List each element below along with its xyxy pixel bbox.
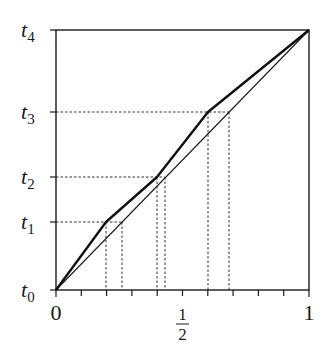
label-t0: t0	[21, 277, 35, 305]
y-ticks	[50, 30, 56, 290]
x-ticks	[56, 290, 309, 297]
label-t3: t3	[21, 99, 35, 127]
y-axis-labels: t0 t1 t2 t3 t4	[21, 17, 35, 305]
label-x-half-denominator: 2	[178, 325, 187, 344]
x-axis-labels: 0 1 2 1	[51, 300, 315, 344]
label-x-one: 1	[304, 300, 315, 325]
label-x-zero: 0	[51, 300, 62, 325]
identity-diagonal	[56, 30, 309, 290]
label-x-half-numerator: 1	[178, 305, 187, 324]
label-t4: t4	[21, 17, 35, 45]
label-t1: t1	[21, 209, 35, 237]
label-t2: t2	[21, 164, 35, 192]
mapping-diagram: t0 t1 t2 t3 t4 0 1 2 1	[0, 0, 323, 361]
